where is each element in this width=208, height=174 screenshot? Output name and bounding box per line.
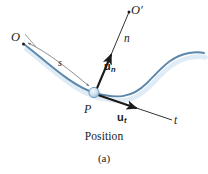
- figure-caption: Position: [0, 131, 208, 143]
- subfigure-label: (a): [0, 153, 208, 164]
- origin-tick: [25, 34, 36, 47]
- label-center-of-curvature: O′: [131, 4, 143, 17]
- label-origin: O: [11, 31, 20, 44]
- unit-normal-base: u: [104, 60, 111, 72]
- unit-normal-subscript: n: [111, 65, 116, 74]
- diagram-canvas: [0, 0, 208, 174]
- label-normal-axis: n: [124, 33, 130, 45]
- particle-sphere: [89, 87, 99, 97]
- unit-tangent-base: u: [117, 111, 124, 123]
- label-unit-tangent-vector: ut: [117, 112, 126, 123]
- label-unit-normal-vector: un: [104, 61, 115, 72]
- label-tangent-axis: t: [174, 115, 177, 127]
- origin-dot: [22, 43, 25, 46]
- label-particle-point: P: [84, 103, 91, 115]
- figure-position-diagram: O O′ n t s P un ut Position (a): [0, 0, 208, 174]
- label-arc-length: s: [58, 58, 62, 68]
